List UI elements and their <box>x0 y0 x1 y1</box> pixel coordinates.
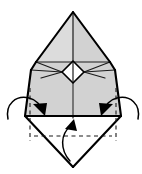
origami-diagram: Origami folding step diagram Shaded orig… <box>0 0 142 174</box>
left-body-panel <box>25 71 72 118</box>
right-body-panel <box>74 71 121 118</box>
origami-illustration: Origami folding step diagram Shaded orig… <box>0 0 142 174</box>
